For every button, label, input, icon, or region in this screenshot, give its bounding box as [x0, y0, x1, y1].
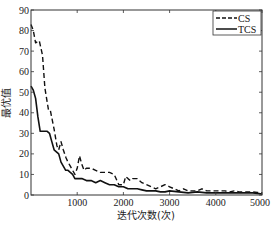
- x-tick-label: 3000: [160, 197, 180, 208]
- legend: CS TCS: [213, 11, 261, 35]
- legend-label-cs: CS: [238, 13, 250, 24]
- y-axis-label: 最优值: [0, 88, 12, 118]
- x-axis: 10002000300040005000: [67, 10, 270, 208]
- y-tick-label: 50: [19, 87, 29, 98]
- series-line-tcs: [31, 86, 262, 194]
- y-tick-label: 70: [19, 46, 29, 57]
- x-tick-label: 2000: [113, 197, 133, 208]
- y-tick-label: 60: [19, 66, 29, 77]
- series-line-cs: [31, 24, 262, 193]
- y-tick-label: 0: [24, 190, 29, 201]
- plot-lines: [31, 24, 262, 194]
- legend-label-tcs: TCS: [238, 24, 256, 35]
- x-axis-label: 迭代次数(次): [117, 209, 175, 221]
- y-tick-label: 10: [19, 169, 29, 180]
- y-tick-label: 80: [19, 25, 29, 36]
- x-tick-label: 5000: [250, 197, 270, 208]
- y-tick-label: 30: [19, 128, 29, 139]
- line-chart: 0102030405060708090 10002000300040005000…: [0, 0, 271, 225]
- plot-frame: [31, 10, 262, 195]
- y-tick-label: 20: [19, 148, 29, 159]
- y-tick-label: 90: [19, 5, 29, 16]
- y-tick-label: 40: [19, 107, 29, 118]
- x-tick-label: 1000: [67, 197, 87, 208]
- x-tick-label: 4000: [206, 197, 226, 208]
